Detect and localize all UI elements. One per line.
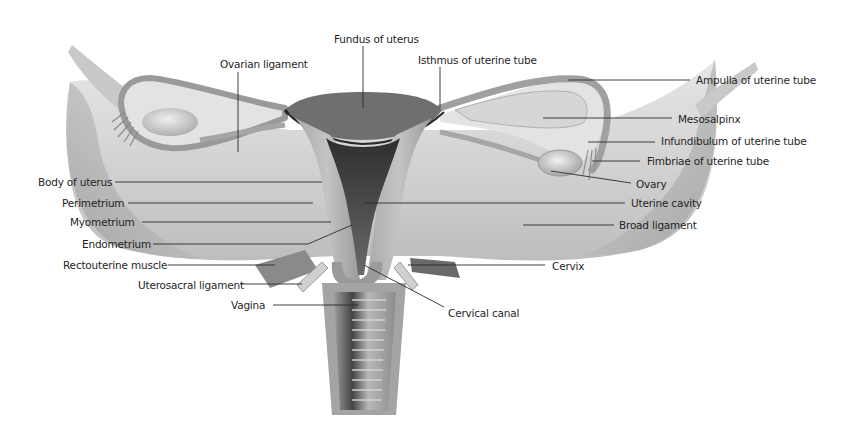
label-ovary: Ovary [636,178,666,190]
label-vagina: Vagina [231,299,265,311]
label-myometrium: Myometrium [70,216,135,228]
label-body-of-uterus: Body of uterus [38,176,112,188]
anatomy-diagram: Fundus of uterus Isthmus of uterine tube… [0,0,847,447]
label-isthmus-of-uterine-tube: Isthmus of uterine tube [418,54,537,66]
label-cervix: Cervix [552,260,584,272]
label-fundus-of-uterus: Fundus of uterus [334,33,419,45]
label-ampulla-of-uterine-tube: Ampulla of uterine tube [696,74,816,86]
label-mesosalpinx: Mesosalpinx [678,113,741,125]
label-broad-ligament: Broad ligament [619,219,697,231]
label-endometrium: Endometrium [82,238,151,250]
label-uterine-cavity: Uterine cavity [631,197,702,209]
label-infundibulum-of-uterine-tube: Infundibulum of uterine tube [661,135,806,147]
label-fimbriae-of-uterine-tube: Fimbriae of uterine tube [647,155,769,167]
label-uterosacral-ligament: Uterosacral ligament [138,279,244,291]
label-rectouterine-muscle: Rectouterine muscle [63,259,167,271]
label-perimetrium: Perimetrium [62,197,124,209]
label-ovarian-ligament: Ovarian ligament [220,58,308,70]
label-cervical-canal: Cervical canal [448,307,519,319]
